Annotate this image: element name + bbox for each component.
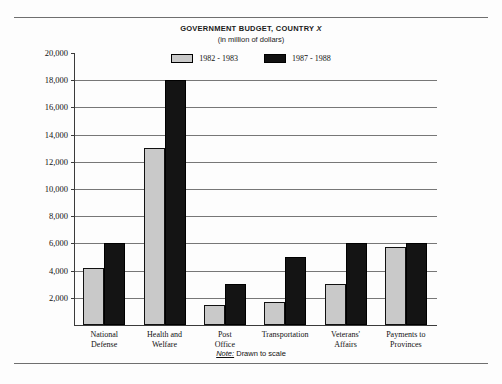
bar-group [83, 53, 125, 325]
bar [406, 243, 427, 325]
y-axis-tick-label: 6,000 [12, 238, 68, 248]
y-axis-tick-label: 16,000 [12, 102, 68, 112]
bar [104, 243, 125, 325]
bars-layer [74, 53, 436, 325]
bar [165, 80, 186, 325]
bar [264, 302, 285, 325]
plot-area: 2,0004,0006,0008,00010,00012,00014,00016… [0, 0, 502, 384]
y-axis-tick-label: 10,000 [12, 184, 68, 194]
y-axis-tick-labels: 2,0004,0006,0008,00010,00012,00014,00016… [8, 53, 68, 325]
bar [325, 284, 346, 325]
bar [385, 247, 406, 325]
y-axis-tick-label: 20,000 [12, 48, 68, 58]
x-axis-tick-label: Payments toProvinces [369, 330, 443, 350]
y-axis-tick-label: 2,000 [12, 293, 68, 303]
y-axis-tick-label: 8,000 [12, 211, 68, 221]
bar [225, 284, 246, 325]
chart-note-text: Drawn to scale [234, 349, 286, 358]
bar-group [204, 53, 246, 325]
bar-group [144, 53, 186, 325]
bar [204, 305, 225, 325]
chart-note-prefix: Note: [216, 349, 234, 358]
y-axis-tick-label: 14,000 [12, 130, 68, 140]
bar [83, 268, 104, 325]
chart-note: Note: Drawn to scale [0, 349, 502, 358]
y-axis-tick-label: 18,000 [12, 75, 68, 85]
bar-group [325, 53, 367, 325]
bar-group [385, 53, 427, 325]
bar [285, 257, 306, 325]
bar-group [264, 53, 306, 325]
y-axis-tick-label: 12,000 [12, 157, 68, 167]
chart-page: GOVERNMENT BUDGET, COUNTRY X (in million… [0, 0, 502, 384]
bar [346, 243, 367, 325]
x-axis-tick-label-line: Payments to [369, 330, 443, 340]
bar [144, 148, 165, 325]
y-axis-tick-label: 4,000 [12, 266, 68, 276]
